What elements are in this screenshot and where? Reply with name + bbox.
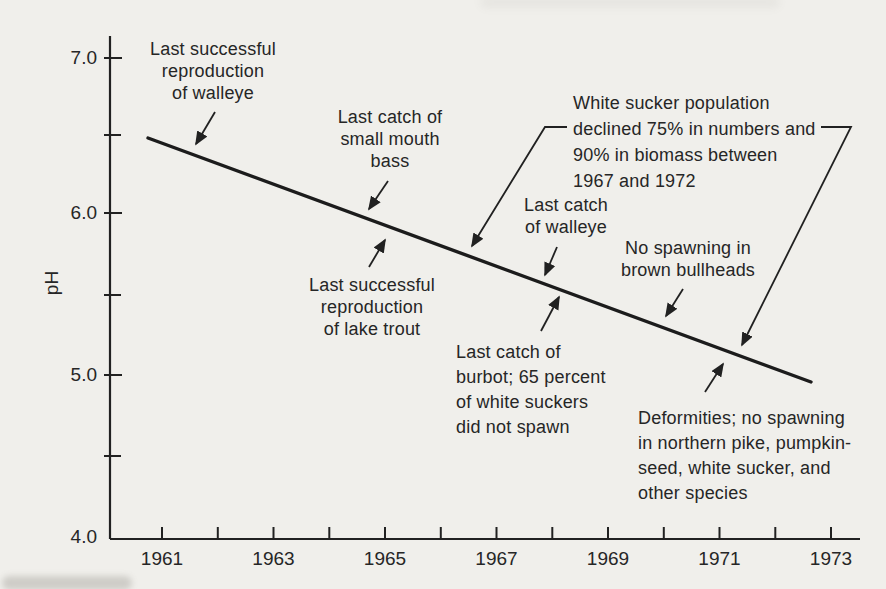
y-axis-ticks [104, 58, 122, 456]
annotation-burbot-white-suckers: Last catch of burbot; 65 percent of whit… [456, 340, 606, 440]
x-tick-label-1969: 1969 [587, 549, 629, 569]
arrow-smallmouth-bass [369, 181, 388, 209]
x-tick-label-1971: 1971 [698, 549, 740, 569]
y-axis-title: pH [42, 265, 62, 301]
y-tick-label-7: 7.0 [53, 48, 97, 68]
scan-smudge-artifact [2, 576, 132, 589]
arrow-walleye-catch [545, 247, 557, 275]
figure-canvas: pH 7.0 6.0 5.0 4.0 1961 1963 1965 1967 1… [0, 0, 886, 589]
arrow-lake-trout [369, 240, 385, 267]
annotation-deformities: Deformities; no spawning in northern pik… [638, 406, 851, 506]
x-tick-label-1965: 1965 [364, 549, 406, 569]
y-tick-label-5: 5.0 [53, 365, 97, 385]
annotation-lake-trout-reproduction: Last successful reproduction of lake tro… [309, 274, 435, 340]
arrow-brown-bullheads [666, 289, 683, 316]
annotation-brown-bullheads: No spawning in brown bullheads [621, 237, 755, 281]
y-tick-label-4: 4.0 [53, 527, 97, 547]
arrow-walleye-reproduction [196, 112, 215, 144]
x-tick-label-1961: 1961 [141, 549, 183, 569]
scan-bleed-artifact [480, 0, 780, 8]
x-tick-label-1973: 1973 [810, 549, 852, 569]
y-tick-label-6: 6.0 [53, 203, 97, 223]
arrow-deformities [705, 364, 723, 392]
x-axis-ticks [162, 527, 831, 539]
annotation-white-sucker-decline: White sucker population declined 75% in … [573, 90, 816, 194]
x-tick-label-1967: 1967 [475, 549, 517, 569]
x-tick-label-1963: 1963 [252, 549, 294, 569]
arrow-burbot [541, 297, 559, 331]
annotation-walleye-catch: Last catch of walleye [524, 194, 608, 238]
annotation-walleye-reproduction: Last successful reproduction of walleye [150, 38, 276, 104]
annotation-smallmouth-bass-catch: Last catch of small mouth bass [338, 106, 443, 172]
